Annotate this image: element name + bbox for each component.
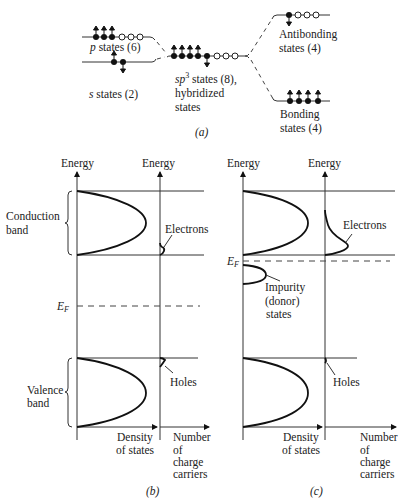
panel-b-carrier-axis-label-line2: of — [173, 444, 183, 456]
antibonding-count-label: states (4) — [279, 42, 321, 55]
antibonding-label: Antibonding — [279, 28, 337, 41]
panel-b-intrinsic-semiconductor: Energy Energy Conduction band Valence ba… — [6, 157, 211, 498]
panel-c-energy-label-carriers: Energy — [308, 157, 341, 170]
panel-c-impurity-dos-curve — [243, 265, 266, 284]
band-structure-figure: p states (6) s states (2) — [0, 0, 410, 503]
antibonding-states-level: Antibonding states (4) — [272, 12, 337, 55]
panel-b-electrons-pointer — [164, 235, 172, 247]
connector-p-to-sp3 — [157, 42, 166, 53]
s-states-label: s states (2) — [89, 88, 138, 101]
panel-c-carrier-axis-label-line2: of — [360, 444, 370, 456]
panel-c-electrons-pointer — [346, 234, 352, 242]
panel-b-dos-axis-label: Density — [117, 431, 153, 444]
panel-c-conduction-dos-curve — [243, 191, 308, 255]
s-states-level: s states (2) — [82, 51, 156, 101]
connector-sp3-to-antibonding — [251, 19, 272, 52]
panel-b-conduction-brace — [65, 191, 72, 255]
panel-c-dos-axis-label-line2: of states — [282, 444, 321, 456]
panel-c-electron-distribution — [325, 210, 348, 255]
impurity-label: Impurity — [265, 281, 305, 294]
impurity-states-label: states — [266, 308, 292, 320]
panel-b-valence-brace — [65, 358, 72, 427]
sp3-states-label: sp3 states (8), — [175, 71, 237, 86]
panel-b-carrier-axis-label-line4: carriers — [173, 468, 208, 480]
panel-b-hole-distribution — [160, 358, 165, 367]
panel-c-n-type-semiconductor: Energy Energy Impurity (donor) states El… — [226, 157, 398, 498]
panel-c-carrier-axis-label-line4: carriers — [360, 468, 395, 480]
bonding-states-level: Bonding states (4) — [272, 90, 330, 135]
panel-c-holes-pointer — [327, 363, 335, 375]
panel-c-caption: (c) — [310, 485, 323, 498]
panel-b-dos-axis-label-line2: of states — [116, 444, 155, 456]
panel-b-caption: (b) — [146, 485, 160, 498]
bonding-label: Bonding — [280, 108, 320, 121]
panel-c-holes-label: Holes — [333, 376, 360, 388]
valence-band-label-line2: band — [27, 397, 50, 409]
panel-b-carrier-axis-label: Number — [173, 431, 211, 443]
panel-c-carrier-axis-label: Number — [360, 431, 398, 443]
panel-b-electrons-label: Electrons — [165, 223, 209, 235]
panel-b-energy-label-dos: Energy — [61, 157, 94, 170]
panel-b-electron-distribution — [160, 243, 164, 255]
panel-b-energy-label-carriers: Energy — [142, 157, 175, 170]
bonding-count-label: states (4) — [280, 122, 322, 135]
conduction-band-label: Conduction — [6, 210, 60, 222]
panel-a-orbital-diagram: p states (6) s states (2) — [82, 12, 337, 139]
panel-a-caption: (a) — [195, 126, 209, 139]
panel-c-electrons-label: Electrons — [343, 219, 387, 231]
p-empty-states — [119, 34, 143, 40]
p-filled-states — [93, 26, 115, 40]
p-states-level: p states (6) — [82, 26, 155, 54]
panel-c-fermi-label: EF — [226, 255, 239, 269]
sp3-states-level: sp3 states (8), hybridized states — [167, 45, 249, 113]
panel-c-energy-label-dos: Energy — [227, 157, 260, 170]
sp3-states-word-label: states — [175, 101, 201, 113]
panel-b-holes-pointer — [165, 366, 173, 373]
panel-c-dos-axis-label: Density — [283, 431, 319, 444]
panel-b-valence-dos-curve — [77, 358, 146, 427]
valence-band-label: Valence — [27, 384, 63, 396]
panel-c-valence-dos-curve — [243, 358, 308, 427]
connector-sp3-to-bonding — [251, 60, 272, 97]
panel-b-fermi-label: EF — [56, 300, 69, 314]
conduction-band-label-line2: band — [6, 224, 29, 236]
impurity-donor-label: (donor) — [265, 295, 300, 308]
panel-c-hole-distribution — [325, 358, 326, 363]
panel-b-holes-label: Holes — [170, 376, 197, 388]
panel-b-conduction-dos-curve — [77, 191, 146, 255]
connector-s-to-sp3 — [157, 57, 165, 59]
sp3-hybridized-label: hybridized — [175, 87, 224, 100]
